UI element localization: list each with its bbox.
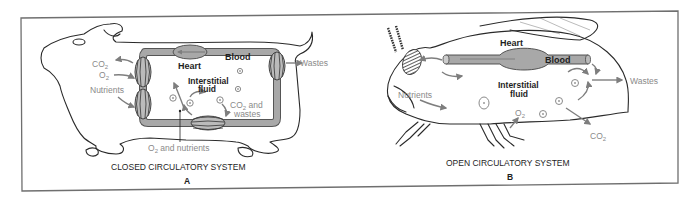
label-wastes-a: Wastes	[300, 58, 328, 68]
label-heart-a: Heart	[178, 61, 201, 71]
label-o2-b: O2	[515, 108, 526, 119]
capillary-bed-tissue	[191, 116, 225, 130]
insect-compound-eye	[399, 47, 425, 78]
label-blood-a: Blood	[225, 52, 251, 62]
label-o2-nutrients-a: O2 and nutrients	[148, 143, 209, 154]
capillary-bed-lungs	[135, 57, 151, 87]
label-fluid-b: fluid	[510, 89, 528, 99]
capillary-bed-kidney	[269, 52, 285, 80]
label-co2-a: CO2	[92, 59, 109, 70]
panel-b-letter: B	[507, 172, 513, 182]
label-wastes-b: Wastes	[630, 76, 658, 86]
panel-closed-circulatory: Heart Blood Interstitial fluid CO2 O2 Nu…	[41, 23, 328, 186]
panel-b-title: OPEN CIRCULATORY SYSTEM	[446, 158, 570, 168]
panel-a-title: CLOSED CIRCULATORY SYSTEM	[111, 162, 245, 172]
insect-antennae	[388, 26, 403, 52]
label-blood-b: Blood	[545, 55, 571, 65]
label-fluid-a: fluid	[198, 84, 216, 94]
panel-open-circulatory: Heart Blood Interstitial fluid Nutrients…	[388, 17, 659, 182]
label-heart-b: Heart	[500, 38, 523, 48]
label-wastes2-a: wastes	[233, 109, 260, 119]
label-nutrients-b: Nutrients	[398, 90, 432, 100]
mammal-eye	[73, 39, 85, 45]
panel-a-letter: A	[184, 176, 190, 186]
circulatory-systems-figure: Heart Blood Interstitial fluid CO2 O2 Nu…	[0, 0, 700, 201]
label-nutrients-a: Nutrients	[90, 85, 124, 95]
label-o2-a: O2	[99, 70, 110, 81]
label-co2-b: CO2	[590, 131, 607, 142]
insect-legs	[396, 122, 524, 148]
capillary-bed-gut	[135, 89, 151, 119]
